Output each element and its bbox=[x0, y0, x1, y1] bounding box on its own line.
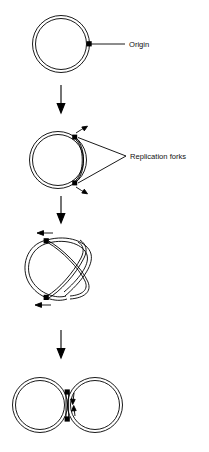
right-daughter-inner-strand bbox=[71, 381, 120, 430]
left-daughter-outer-strand bbox=[13, 378, 68, 433]
right-daughter-outer-strand bbox=[68, 378, 123, 433]
figure-canvas: Origin bbox=[0, 0, 209, 452]
stage4-fork-dot-upper bbox=[65, 389, 70, 394]
origin-label: Origin bbox=[129, 40, 149, 49]
stage3-fork-arrow-upper bbox=[37, 231, 53, 236]
transition-arrow-3 bbox=[57, 330, 65, 358]
forks-leader-line-upper bbox=[78, 138, 126, 157]
stage3-fork-arrow-lower bbox=[35, 303, 51, 308]
fork-dot-lower bbox=[72, 180, 77, 185]
origin-marker-dot bbox=[87, 41, 92, 46]
transition-arrow-2 bbox=[57, 196, 65, 223]
stage-2-replication-bubble: Replication forks bbox=[30, 126, 187, 194]
stage3-fork-dot-lower bbox=[44, 295, 49, 300]
chromosome-outer-strand bbox=[33, 16, 90, 73]
replication-diagram: Origin bbox=[0, 0, 209, 452]
stage2-fork-arrow-upper bbox=[76, 126, 88, 133]
stage2-inner-strand bbox=[33, 135, 84, 186]
stage3-fork-dot-upper bbox=[44, 238, 49, 243]
left-daughter-inner-strand bbox=[16, 381, 65, 430]
replication-forks-label: Replication forks bbox=[130, 152, 186, 161]
transition-arrow-1 bbox=[57, 85, 65, 113]
stage-4-daughter-circles bbox=[13, 378, 123, 433]
fork-dot-upper bbox=[72, 135, 77, 140]
stage2-fork-arrow-lower bbox=[76, 187, 88, 194]
stage3-right-loop-inner bbox=[49, 241, 88, 292]
stage-1-circular-chromosome: Origin bbox=[33, 16, 150, 73]
stage-3-theta-intermediate bbox=[25, 231, 91, 308]
stage4-fork-dot-lower bbox=[65, 416, 70, 421]
chromosome-inner-strand bbox=[36, 19, 87, 70]
